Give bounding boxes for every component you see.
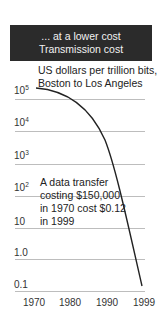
y-tick-10: 10: [14, 217, 25, 227]
annotation-line-1: A data transfer: [40, 176, 126, 189]
annotation-line-4: in 1999: [40, 215, 126, 228]
y-tick-1e3: 103: [14, 148, 29, 161]
y-tick-1e4: 104: [14, 115, 29, 128]
x-tick-1999: 1999: [133, 297, 155, 308]
y-tick-1e2: 102: [14, 180, 29, 193]
y-tick-1e5: 105: [14, 83, 29, 96]
y-tick-0-1: 0.1: [14, 280, 28, 290]
chart-annotation: A data transfer costing $150,000 in 1970…: [40, 176, 126, 228]
x-tick-1990: 1990: [96, 297, 118, 308]
x-tick-1980: 1980: [59, 297, 81, 308]
x-tick-1970: 1970: [23, 297, 45, 308]
annotation-line-2: costing $150,000: [40, 189, 126, 202]
y-tick-1: 1.0: [14, 248, 28, 258]
annotation-line-3: in 1970 cost $0.12: [40, 202, 126, 215]
plot-area: [0, 0, 167, 325]
